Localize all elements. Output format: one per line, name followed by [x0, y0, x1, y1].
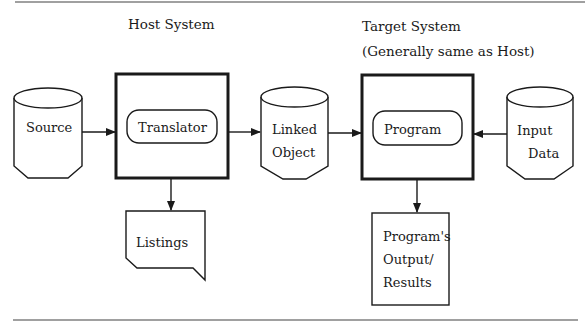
output-label-line2: Output/ — [383, 252, 434, 267]
translator-box: Translator — [116, 74, 228, 178]
target-system-subheading: (Generally same as Host) — [362, 43, 535, 59]
input-data-label-line1: Input — [517, 123, 553, 138]
listings-label: Listings — [136, 235, 188, 250]
target-system-heading: Target System — [362, 18, 461, 34]
translation-diagram: Host System Target System (Generally sam… — [0, 0, 585, 328]
listings-document: Listings — [126, 211, 205, 280]
host-system-heading: Host System — [128, 16, 215, 32]
input-data-cylinder: Input Data — [507, 87, 573, 179]
output-label-line1: Program's — [383, 229, 451, 244]
program-label: Program — [384, 122, 441, 137]
linked-object-cylinder: Linked Object — [261, 87, 328, 179]
output-label-line3: Results — [383, 275, 432, 290]
source-label: Source — [26, 120, 73, 135]
linked-object-label-line1: Linked — [272, 122, 317, 137]
linked-object-label-line2: Object — [272, 145, 316, 160]
source-cylinder: Source — [14, 88, 82, 178]
program-box: Program — [362, 75, 473, 179]
input-data-label-line2: Data — [528, 146, 559, 161]
translator-label: Translator — [138, 120, 208, 135]
output-box: Program's Output/ Results — [372, 213, 451, 305]
